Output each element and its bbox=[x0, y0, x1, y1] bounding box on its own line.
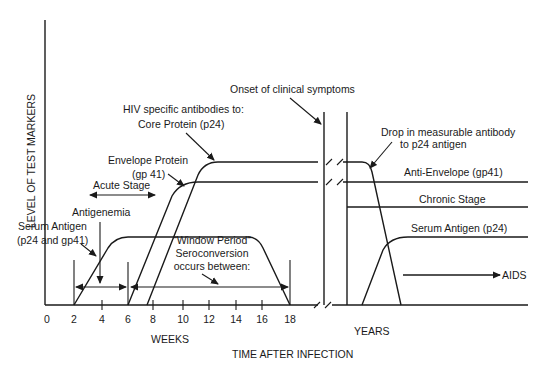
svg-text:14: 14 bbox=[230, 313, 242, 325]
svg-text:0: 0 bbox=[44, 313, 50, 325]
core-protein-pointer bbox=[186, 133, 214, 160]
acute-stage-label: Acute Stage bbox=[93, 179, 150, 191]
week-tick-labels: 0 2 4 6 8 10 12 14 16 18 bbox=[44, 313, 296, 325]
hiv-test-markers-diagram: LEVEL OF TEST MARKERS 0 2 4 6 8 10 12 14… bbox=[0, 0, 546, 377]
drop-p24-label: to p24 antigen bbox=[400, 138, 467, 150]
svg-text:4: 4 bbox=[99, 313, 105, 325]
envelope-protein-label: Envelope Protein bbox=[108, 154, 188, 166]
plateau-break-marks bbox=[326, 159, 343, 185]
occurs-between-label: occurs between: bbox=[174, 260, 250, 272]
years-label: YEARS bbox=[354, 325, 390, 337]
axis-break-marks bbox=[314, 302, 331, 308]
serum-antigen-label: Serum Antigen bbox=[18, 220, 87, 232]
onset-label: Onset of clinical symptoms bbox=[230, 83, 355, 95]
anti-envelope-label: Anti-Envelope (gp41) bbox=[404, 166, 503, 178]
weeks-label: WEEKS bbox=[151, 333, 189, 345]
svg-text:16: 16 bbox=[256, 313, 268, 325]
svg-text:18: 18 bbox=[284, 313, 296, 325]
x-axis-title: TIME AFTER INFECTION bbox=[232, 348, 353, 360]
core-protein-label: Core Protein (p24) bbox=[138, 118, 224, 130]
antigenemia-label: Antigenemia bbox=[72, 206, 131, 218]
svg-text:6: 6 bbox=[125, 313, 131, 325]
svg-text:12: 12 bbox=[203, 313, 215, 325]
chronic-stage-label: Chronic Stage bbox=[419, 193, 486, 205]
serum-antigen-p24-label: Serum Antigen (p24) bbox=[411, 222, 507, 234]
p24-antibody-drop-curve bbox=[343, 162, 401, 305]
onset-pointer bbox=[290, 98, 321, 124]
y-axis-label: LEVEL OF TEST MARKERS bbox=[25, 94, 37, 228]
drop-pointer bbox=[370, 142, 392, 168]
svg-text:2: 2 bbox=[71, 313, 77, 325]
envelope-pointer bbox=[168, 174, 184, 186]
window-period-label: “Window Period” bbox=[173, 234, 251, 246]
window-pointer bbox=[202, 274, 218, 284]
aids-label: AIDS bbox=[502, 269, 527, 281]
seroconversion-label: Seroconversion bbox=[176, 247, 249, 259]
svg-text:8: 8 bbox=[150, 313, 156, 325]
serum-antigen-sub-label: (p24 and gp41) bbox=[17, 234, 88, 246]
svg-text:10: 10 bbox=[177, 313, 189, 325]
hiv-antibodies-label: HIV specific antibodies to: bbox=[123, 103, 244, 115]
serum-antigen-pointer bbox=[81, 244, 96, 256]
drop-antibody-label: Drop in measurable antibody bbox=[381, 126, 516, 138]
